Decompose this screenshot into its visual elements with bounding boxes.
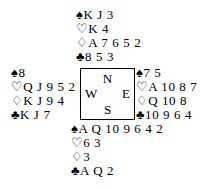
east-heart-line: ♡A 10 8 7 xyxy=(136,80,197,94)
compass-south-label: S xyxy=(81,103,134,116)
heart-icon: ♡ xyxy=(71,136,83,150)
north-diamond-line: ♢A 7 6 5 2 xyxy=(76,36,141,50)
diamond-icon: ♢ xyxy=(76,36,88,50)
south-club-line: ♣A Q 2 xyxy=(71,164,163,178)
east-club-line: ♣10 9 6 4 xyxy=(136,108,197,122)
north-heart-line: ♡K 4 xyxy=(76,22,141,36)
diamond-icon: ♢ xyxy=(136,94,148,108)
spade-icon: ♠ xyxy=(136,66,143,80)
west-club-line: ♣K J 7 xyxy=(11,108,76,122)
south-spade-cards: A Q 10 9 6 4 2 xyxy=(78,122,163,136)
compass-east-label: E xyxy=(122,87,130,100)
east-diamond-line: ♢Q 10 8 xyxy=(136,94,197,108)
west-heart-cards: Q J 9 5 2 xyxy=(23,80,75,94)
south-club-cards: A Q 2 xyxy=(80,164,114,178)
heart-icon: ♡ xyxy=(76,22,88,36)
hand-south: ♠A Q 10 9 6 4 2 ♡6 3 ♢3 ♣A Q 2 xyxy=(71,122,163,178)
heart-icon: ♡ xyxy=(136,80,148,94)
south-spade-line: ♠A Q 10 9 6 4 2 xyxy=(71,122,163,136)
east-heart-cards: A 10 8 7 xyxy=(148,80,197,94)
south-diamond-line: ♢3 xyxy=(71,150,163,164)
north-club-cards: 8 5 3 xyxy=(85,50,114,64)
compass-west-label: W xyxy=(85,87,97,100)
south-diamond-cards: 3 xyxy=(83,150,90,164)
bridge-deal-diagram: ♠K J 3 ♡K 4 ♢A 7 6 5 2 ♣8 5 3 ♠8 ♡Q J 9 … xyxy=(0,0,215,189)
west-diamond-line: ♢K J 9 4 xyxy=(11,94,76,108)
spade-icon: ♠ xyxy=(71,122,78,136)
hand-north: ♠K J 3 ♡K 4 ♢A 7 6 5 2 ♣8 5 3 xyxy=(76,8,141,64)
club-icon: ♣ xyxy=(11,108,20,122)
east-spade-line: ♠7 5 xyxy=(136,66,197,80)
west-heart-line: ♡Q J 9 5 2 xyxy=(11,80,76,94)
club-icon: ♣ xyxy=(71,164,80,178)
west-club-cards: K J 7 xyxy=(20,108,50,122)
spade-icon: ♠ xyxy=(76,8,83,22)
heart-icon: ♡ xyxy=(11,80,23,94)
east-club-cards: 10 9 6 4 xyxy=(145,108,192,122)
diamond-icon: ♢ xyxy=(11,94,23,108)
compass-north-label: N xyxy=(81,72,134,85)
spade-icon: ♠ xyxy=(11,66,18,80)
north-club-line: ♣8 5 3 xyxy=(76,50,141,64)
diamond-icon: ♢ xyxy=(71,150,83,164)
east-diamond-cards: Q 10 8 xyxy=(148,94,187,108)
east-spade-cards: 7 5 xyxy=(143,66,161,80)
west-spade-cards: 8 xyxy=(18,66,25,80)
south-heart-line: ♡6 3 xyxy=(71,136,163,150)
compass-box: N W E S xyxy=(80,68,135,120)
north-heart-cards: K 4 xyxy=(88,22,109,36)
north-spade-line: ♠K J 3 xyxy=(76,8,141,22)
hand-east: ♠7 5 ♡A 10 8 7 ♢Q 10 8 ♣10 9 6 4 xyxy=(136,66,197,122)
club-icon: ♣ xyxy=(136,108,145,122)
hand-west: ♠8 ♡Q J 9 5 2 ♢K J 9 4 ♣K J 7 xyxy=(11,66,76,122)
club-icon: ♣ xyxy=(76,50,85,64)
west-diamond-cards: K J 9 4 xyxy=(23,94,64,108)
south-heart-cards: 6 3 xyxy=(83,136,101,150)
west-spade-line: ♠8 xyxy=(11,66,76,80)
north-diamond-cards: A 7 6 5 2 xyxy=(88,36,141,50)
north-spade-cards: K J 3 xyxy=(83,8,113,22)
